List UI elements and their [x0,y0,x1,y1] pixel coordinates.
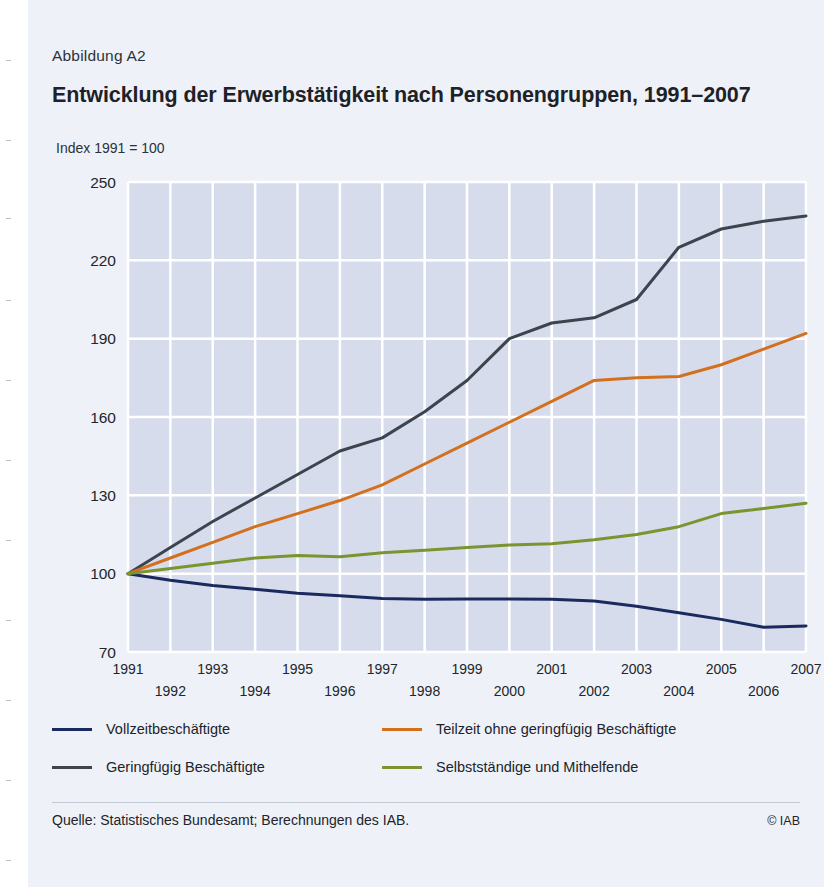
y-axis-tick-label: 160 [90,409,116,426]
legend-label: Vollzeitbeschäftigte [106,721,230,737]
chart-svg: 7010013016019022025019911992199319941995… [28,160,824,705]
page-edge-tick [6,460,11,461]
x-axis-tick-label: 2002 [579,683,610,699]
x-axis-tick-label: 2001 [536,661,567,677]
x-axis-tick-label: 2007 [790,661,821,677]
x-axis-tick-label: 2004 [663,683,694,699]
legend-color-swatch [382,728,422,731]
x-axis-tick-label: 1996 [324,683,355,699]
y-axis-tick-label: 190 [90,330,116,347]
page-edge-tick [6,60,11,61]
legend-entry: Teilzeit ohne geringfügig Beschäftigte [382,721,676,737]
y-axis-tick-label: 130 [90,487,116,504]
page-edge-tick [6,218,11,219]
legend-label: Teilzeit ohne geringfügig Beschäftigte [436,721,676,737]
source-divider [52,802,800,803]
page-edge-tick [6,700,11,701]
legend-color-swatch [52,766,92,769]
index-note: Index 1991 = 100 [56,140,165,156]
x-axis-tick-label: 1998 [409,683,440,699]
x-axis-tick-label: 1991 [112,661,143,677]
legend-label: Selbstständige und Mithelfende [436,759,638,775]
page-margin-ticks [0,0,28,887]
figure-number: Abbildung A2 [52,47,146,65]
legend-item: Geringfügig Beschäftigte [52,750,265,784]
x-axis-tick-label: 2003 [621,661,652,677]
x-axis-tick-label: 2006 [748,683,779,699]
y-axis-tick-label: 220 [90,252,116,269]
legend-entry: Vollzeitbeschäftigte [52,721,230,737]
page-edge-tick [6,540,11,541]
y-axis-tick-label: 100 [90,565,116,582]
x-axis-tick-label: 1995 [282,661,313,677]
legend-label: Geringfügig Beschäftigte [106,759,265,775]
x-axis-tick-label: 2005 [706,661,737,677]
y-axis-tick-label: 250 [90,174,116,191]
legend-color-swatch [382,766,422,769]
page-edge-tick [6,780,11,781]
x-axis-tick-label: 1992 [155,683,186,699]
legend-item: Selbstständige und Mithelfende [382,750,638,784]
page-edge-tick [6,140,11,141]
legend-item: Vollzeitbeschäftigte [52,712,230,746]
line-chart: 7010013016019022025019911992199319941995… [28,160,824,705]
page-edge-tick [6,300,11,301]
page-edge-tick [6,860,11,861]
x-axis-tick-label: 2000 [494,683,525,699]
figure-card: Abbildung A2 Entwicklung der Erwerbstäti… [28,0,824,887]
copyright-note: © IAB [767,814,800,828]
legend-entry: Selbstständige und Mithelfende [382,759,638,775]
x-axis-tick-label: 1997 [367,661,398,677]
x-axis-tick-label: 1993 [197,661,228,677]
legend-item: Teilzeit ohne geringfügig Beschäftigte [382,712,676,746]
page-edge-tick [6,380,11,381]
y-axis-tick-label: 70 [99,644,117,661]
x-axis-tick-label: 1999 [451,661,482,677]
legend-color-swatch [52,728,92,731]
page-title: Entwicklung der Erwerbstätigkeit nach Pe… [52,83,751,108]
source-note: Quelle: Statistisches Bundesamt; Berechn… [52,812,409,828]
legend-entry: Geringfügig Beschäftigte [52,759,265,775]
page-edge-tick [6,620,11,621]
x-axis-tick-label: 1994 [240,683,271,699]
chart-legend: VollzeitbeschäftigteTeilzeit ohne gering… [52,712,802,788]
